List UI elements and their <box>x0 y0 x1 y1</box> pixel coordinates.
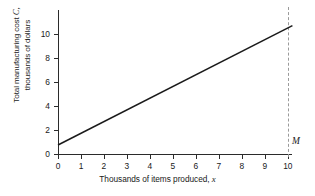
x-tick-label-5: 5 <box>162 161 184 171</box>
y-tick-label-0: 0 <box>26 149 50 159</box>
y-tick-label-10: 10 <box>26 29 50 39</box>
y-axis-label-line1: Total manufacturing cost C, <box>11 7 22 102</box>
plot-area: 0 2 4 6 8 10 0 1 2 3 4 5 6 7 8 9 10 M <box>58 10 292 155</box>
cost-line-series <box>58 10 298 160</box>
y-tick-label-6: 6 <box>26 77 50 87</box>
x-tick-label-4: 4 <box>139 161 161 171</box>
x-axis-label-text: Thousands of items produced, <box>99 174 209 184</box>
x-tick-label-0: 0 <box>47 161 69 171</box>
x-tick-label-7: 7 <box>208 161 230 171</box>
y-tick-label-8: 8 <box>26 53 50 63</box>
y-tick-label-4: 4 <box>26 101 50 111</box>
x-tick-label-9: 9 <box>254 161 276 171</box>
x-tick-label-1: 1 <box>70 161 92 171</box>
x-tick-label-8: 8 <box>231 161 253 171</box>
y-axis-variable-c: C, <box>11 7 21 15</box>
x-tick-label-2: 2 <box>93 161 115 171</box>
x-tick-label-10: 10 <box>277 161 299 171</box>
y-tick-label-2: 2 <box>26 125 50 135</box>
x-tick-label-6: 6 <box>185 161 207 171</box>
manufacturing-cost-chart: Total manufacturing cost C, thousands of… <box>0 0 315 196</box>
x-axis-label: Thousands of items produced, x <box>0 174 315 184</box>
x-tick-label-3: 3 <box>116 161 138 171</box>
x-axis-variable-x: x <box>212 174 216 184</box>
y-axis-label-line1-text: Total manufacturing cost <box>12 17 21 102</box>
